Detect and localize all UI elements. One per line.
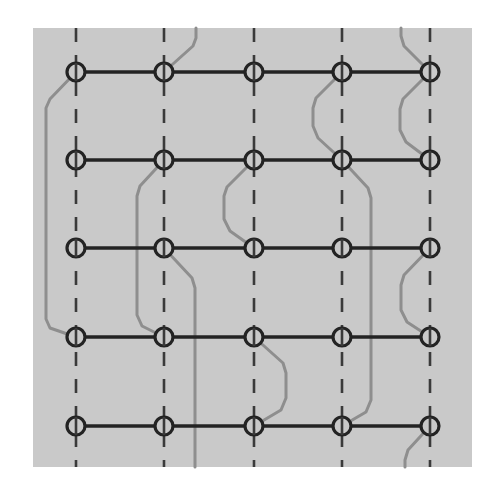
node-n-r2c5[interactable] — [421, 151, 439, 169]
figure-root: left detour from r1c1 to r4c1r1c2 upward… — [0, 0, 496, 492]
node-n-r2c2[interactable] — [155, 151, 173, 169]
node-n-r5c4[interactable] — [333, 417, 351, 435]
node-n-r3c2[interactable] — [155, 239, 173, 257]
node-n-r4c4[interactable] — [333, 328, 351, 346]
node-n-r4c1[interactable] — [67, 328, 85, 346]
node-n-r4c3[interactable] — [245, 328, 263, 346]
node-n-r1c5[interactable] — [421, 63, 439, 81]
node-n-r1c3[interactable] — [245, 63, 263, 81]
node-n-r3c5[interactable] — [421, 239, 439, 257]
node-n-r3c4[interactable] — [333, 239, 351, 257]
node-n-r4c2[interactable] — [155, 328, 173, 346]
node-n-r2c4[interactable] — [333, 151, 351, 169]
node-n-r4c5[interactable] — [421, 328, 439, 346]
node-n-r5c1[interactable] — [67, 417, 85, 435]
node-n-r1c2[interactable] — [155, 63, 173, 81]
node-n-r5c5[interactable] — [421, 417, 439, 435]
node-n-r1c1[interactable] — [67, 63, 85, 81]
node-n-r1c4[interactable] — [333, 63, 351, 81]
grid-network-diagram: left detour from r1c1 to r4c1r1c2 upward… — [0, 0, 496, 492]
node-n-r5c3[interactable] — [245, 417, 263, 435]
node-n-r3c1[interactable] — [67, 239, 85, 257]
node-n-r2c3[interactable] — [245, 151, 263, 169]
node-n-r3c3[interactable] — [245, 239, 263, 257]
node-n-r2c1[interactable] — [67, 151, 85, 169]
node-n-r5c2[interactable] — [155, 417, 173, 435]
